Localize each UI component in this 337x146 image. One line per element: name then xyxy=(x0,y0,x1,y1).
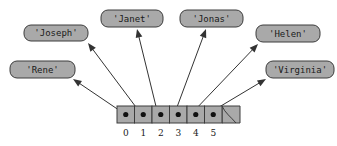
list-cell-3[interactable] xyxy=(170,106,188,123)
list-index-label-0: 0 xyxy=(123,128,129,138)
arrow-cell-4-to-helen-line xyxy=(193,49,254,112)
list-cell-0[interactable] xyxy=(117,106,135,123)
list-reference-diagram: 'Joseph''Rene''Janet''Jonas''Helen''Virg… xyxy=(0,0,337,146)
value-box-helen-label: 'Helen' xyxy=(269,29,307,39)
index-labels-group: 012345 xyxy=(123,128,217,138)
arrow-cell-3-to-jonas-line xyxy=(175,36,204,113)
list-tail-continuation xyxy=(222,106,240,123)
value-box-joseph: 'Joseph' xyxy=(24,25,88,41)
list-index-label-2: 2 xyxy=(158,128,164,138)
list-cell-4-reference-dot xyxy=(193,112,198,117)
list-cell-5-reference-dot xyxy=(211,112,216,117)
arrow-cell-2-to-janet xyxy=(136,29,158,113)
arrow-cell-0-to-rene-head xyxy=(73,79,82,87)
value-box-jonas: 'Jonas' xyxy=(180,10,243,27)
list-index-label-5: 5 xyxy=(210,128,216,138)
list-index-label-4: 4 xyxy=(193,128,199,138)
value-box-helen: 'Helen' xyxy=(256,25,320,42)
value-box-joseph-label: 'Joseph' xyxy=(34,28,77,38)
arrow-cell-2-to-janet-head xyxy=(136,29,143,38)
arrow-cell-0-to-rene xyxy=(73,79,123,113)
value-box-virginia-label: 'Virginia' xyxy=(273,65,327,75)
list-index-label-3: 3 xyxy=(175,128,181,138)
arrow-cell-1-to-joseph xyxy=(88,43,140,113)
arrow-cell-1-to-joseph-line xyxy=(92,49,140,113)
list-cell-1-reference-dot xyxy=(141,112,146,117)
value-box-janet-label: 'Janet' xyxy=(113,14,151,24)
list-cell-4[interactable] xyxy=(187,106,205,123)
list-array-group xyxy=(117,106,240,123)
reference-arrows-group xyxy=(73,29,266,113)
arrow-cell-0-to-rene-line xyxy=(79,83,123,113)
arrow-cell-3-to-jonas-head xyxy=(200,29,206,38)
value-box-janet: 'Janet' xyxy=(101,10,163,27)
list-cell-0-reference-dot xyxy=(123,112,128,117)
value-box-jonas-label: 'Jonas' xyxy=(193,14,231,24)
arrow-cell-4-to-helen xyxy=(193,44,259,113)
value-box-rene-label: 'Rene' xyxy=(26,65,59,75)
value-box-rene: 'Rene' xyxy=(10,61,75,78)
diagram-canvas: 'Joseph''Rene''Janet''Jonas''Helen''Virg… xyxy=(0,0,337,146)
list-cell-2-reference-dot xyxy=(158,112,163,117)
arrow-cell-2-to-janet-line xyxy=(139,36,158,113)
value-box-virginia: 'Virginia' xyxy=(266,61,334,78)
list-cell-2[interactable] xyxy=(152,106,170,123)
value-boxes-group: 'Joseph''Rene''Janet''Jonas''Helen''Virg… xyxy=(10,10,334,78)
list-cell-3-reference-dot xyxy=(176,112,181,117)
arrow-cell-3-to-jonas xyxy=(175,29,206,113)
list-index-label-1: 1 xyxy=(140,128,146,138)
list-cell-5[interactable] xyxy=(205,106,223,123)
list-cell-1[interactable] xyxy=(135,106,153,123)
arrow-cell-5-to-virginia-head xyxy=(257,79,266,86)
arrow-cell-1-to-joseph-head xyxy=(88,43,96,52)
